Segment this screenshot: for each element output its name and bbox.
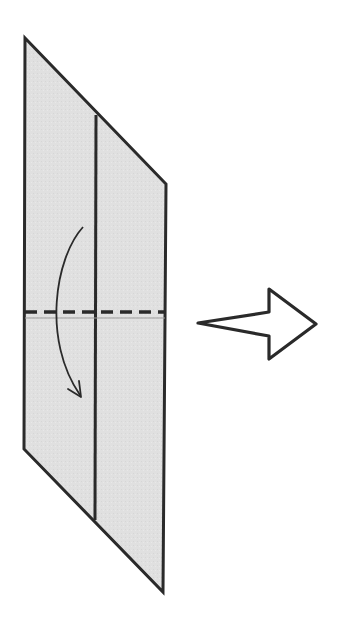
next-step-arrow-icon bbox=[198, 289, 316, 359]
origami-diagram bbox=[0, 0, 338, 631]
